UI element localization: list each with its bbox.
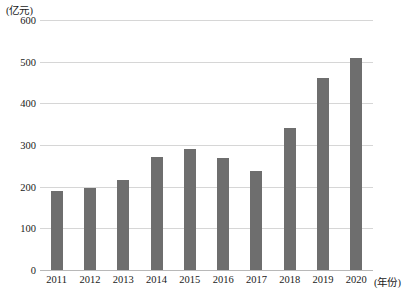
x-axis-tick-label: 2018	[279, 274, 300, 285]
x-axis-tick-label: 2013	[113, 274, 134, 285]
bar	[250, 171, 262, 270]
bar	[151, 157, 163, 270]
x-axis-tick-label: 2016	[213, 274, 234, 285]
y-axis-tick-labels: 0100200300400500600	[0, 20, 36, 270]
y-axis-tick-label: 0	[2, 265, 36, 276]
x-axis-tick-label: 2014	[146, 274, 167, 285]
bar	[350, 58, 362, 270]
x-axis-tick-label: 2015	[179, 274, 200, 285]
bar	[184, 149, 196, 270]
y-axis-tick-label: 500	[2, 56, 36, 67]
x-axis-tick-label: 2017	[246, 274, 267, 285]
x-axis-tick-label: 2019	[313, 274, 334, 285]
bar	[84, 188, 96, 270]
gridline	[40, 270, 373, 271]
x-axis-tick-label: 2012	[79, 274, 100, 285]
bar	[117, 180, 129, 270]
bar	[51, 191, 63, 270]
x-axis-tick-label: 2011	[46, 274, 67, 285]
x-axis-tick-labels: 2011201220132014201520162017201820192020	[40, 274, 373, 294]
bar-series	[40, 20, 373, 270]
y-axis-tick-label: 400	[2, 98, 36, 109]
bar-chart: (亿元) 0100200300400500600 201120122013201…	[0, 0, 414, 303]
y-axis-tick-label: 100	[2, 223, 36, 234]
bar	[284, 128, 296, 271]
y-axis-tick-label: 300	[2, 140, 36, 151]
y-axis-tick-label: 200	[2, 181, 36, 192]
x-axis-tick-label: 2020	[346, 274, 367, 285]
x-axis-unit-label: (年份)	[374, 274, 401, 289]
bar	[317, 78, 329, 271]
bar	[217, 158, 229, 270]
y-axis-tick-label: 600	[2, 15, 36, 26]
